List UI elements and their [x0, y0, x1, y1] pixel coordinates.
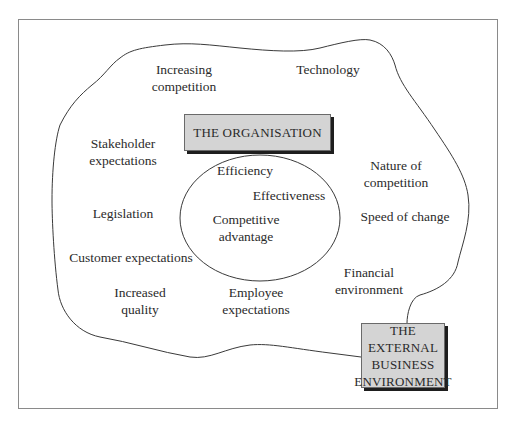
factor-financial-environment: Financial environment: [335, 264, 403, 298]
factor-line: Financial: [335, 264, 403, 281]
factor-line: Increasing: [152, 61, 217, 78]
factor-line: quality: [114, 301, 166, 318]
external-box-line-3: ENVIRONMENT: [354, 373, 452, 390]
organisation-box: THE ORGANISATION: [184, 114, 331, 151]
factor-line: Employee: [222, 284, 289, 301]
external-box-line-1: THE EXTERNAL: [362, 322, 444, 356]
external-box-line-2: BUSINESS: [371, 356, 434, 373]
factor-line: expectations: [222, 301, 289, 318]
factor-stakeholder-expectations: Stakeholder expectations: [89, 135, 156, 169]
factor-line: Speed of change: [360, 208, 449, 225]
factor-competitive-advantage: Competitive advantage: [213, 211, 280, 245]
factor-increased-quality: Increased quality: [114, 284, 166, 318]
factor-nature-of-competition: Nature of competition: [364, 157, 429, 191]
factor-efficiency: Efficiency: [217, 162, 273, 179]
external-environment-box: THE EXTERNAL BUSINESS ENVIRONMENT: [361, 323, 445, 388]
factor-customer-expectations: Customer expectations: [69, 249, 192, 266]
factor-employee-expectations: Employee expectations: [222, 284, 289, 318]
factor-line: competition: [364, 174, 429, 191]
factor-legislation: Legislation: [93, 205, 154, 222]
factor-line: Efficiency: [217, 162, 273, 179]
factor-line: Customer expectations: [69, 249, 192, 266]
factor-line: Effectiveness: [253, 187, 325, 204]
factor-line: Competitive: [213, 211, 280, 228]
factor-effectiveness: Effectiveness: [253, 187, 325, 204]
organisation-box-label: THE ORGANISATION: [193, 124, 322, 141]
factor-line: Increased: [114, 284, 166, 301]
factor-line: Nature of: [364, 157, 429, 174]
factor-line: expectations: [89, 152, 156, 169]
factor-speed-of-change: Speed of change: [360, 208, 449, 225]
factor-technology: Technology: [296, 61, 360, 78]
factor-increasing-competition: Increasing competition: [152, 61, 217, 95]
factor-line: advantage: [213, 228, 280, 245]
factor-line: Technology: [296, 61, 360, 78]
factor-line: Stakeholder: [89, 135, 156, 152]
factor-line: Legislation: [93, 205, 154, 222]
factor-line: competition: [152, 78, 217, 95]
factor-line: environment: [335, 281, 403, 298]
